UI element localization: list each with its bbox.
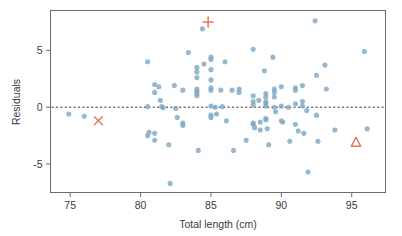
scatter-point [145, 59, 150, 64]
scatter-point [200, 26, 205, 31]
scatter-point [273, 109, 278, 114]
scatter-point [314, 73, 319, 78]
scatter-point [208, 77, 213, 82]
scatter-point [300, 83, 305, 88]
scatter-point [180, 88, 185, 93]
scatter-point [152, 90, 157, 95]
scatter-point [146, 130, 151, 135]
scatter-point [258, 127, 263, 132]
scatter-point [365, 126, 370, 131]
scatter-point [231, 148, 236, 153]
scatter-point [145, 104, 150, 109]
scatter-point [175, 115, 180, 120]
scatter-point [244, 138, 249, 143]
scatter-point [279, 104, 284, 109]
scatter-point [194, 69, 199, 74]
scatter-point [263, 94, 268, 99]
scatter-point [173, 106, 178, 111]
scatter-point [301, 131, 306, 136]
scatter-point [286, 105, 291, 110]
scatter-point [258, 119, 263, 124]
scatter-point [293, 101, 298, 106]
scatter-point [293, 122, 298, 127]
scatter-point [315, 139, 320, 144]
scatter-point [158, 98, 163, 103]
highlighted-markers [94, 17, 360, 146]
scatter-point [296, 129, 301, 134]
scatter-point [66, 111, 71, 116]
x-axis-label: Total length (cm) [179, 218, 257, 230]
scatter-point [201, 61, 206, 66]
scatter-point [263, 104, 268, 109]
scatter-point [362, 49, 367, 54]
y-axis-label: Residuals [10, 78, 22, 124]
scatter-point [222, 59, 227, 64]
scatter-point [82, 114, 87, 119]
plot-canvas: 758085909550-5 [0, 0, 402, 236]
scatter-point [280, 119, 285, 124]
scatter-point [306, 169, 311, 174]
scatter-point [272, 90, 277, 95]
y-tick-label: 5 [37, 44, 43, 56]
scatter-point [194, 65, 199, 70]
scatter-point [300, 99, 305, 104]
scatter-point [313, 18, 318, 23]
y-tick-label: -5 [33, 158, 42, 170]
scatter-point [304, 108, 309, 113]
scatter-point [172, 83, 177, 88]
scatter-point [251, 93, 256, 98]
scatter-point [230, 88, 235, 93]
scatter-point [272, 94, 277, 99]
scatter-point [208, 115, 213, 120]
scatter-point [256, 98, 261, 103]
scatter-point [293, 88, 298, 93]
scatter-point [314, 113, 319, 118]
plus-marker [203, 17, 213, 27]
scatter-point [220, 104, 225, 109]
scatter-point [196, 148, 201, 153]
scatter-point [272, 105, 277, 110]
x-tick-label: 80 [135, 199, 147, 211]
scatter-point [214, 111, 219, 116]
scatter-point [270, 55, 275, 60]
scatter-point [262, 68, 267, 73]
scatter-point [279, 84, 284, 89]
scatter-point [332, 127, 337, 132]
scatter-point [213, 105, 218, 110]
scatter-point [265, 126, 270, 131]
scatter-point [194, 93, 199, 98]
scatter-point [237, 86, 242, 91]
scatter-point [186, 50, 191, 55]
scatter-point [252, 125, 257, 130]
scatter-point [218, 88, 223, 93]
scatter-point [324, 86, 329, 91]
scatter-point [152, 138, 157, 143]
scatter-point [322, 63, 327, 68]
scatter-point [287, 139, 292, 144]
triangle-marker [351, 137, 360, 146]
scatter-point [194, 75, 199, 80]
scatter-point [152, 131, 157, 136]
scatter-point [251, 102, 256, 107]
x-marker [94, 117, 102, 125]
scatter-point [208, 67, 213, 72]
x-tick-label: 85 [205, 199, 217, 211]
scatter-point [168, 181, 173, 186]
y-tick-label: 0 [37, 101, 43, 113]
scatter-plot-figure: 758085909550-5 Total length (cm) Residua… [0, 0, 402, 236]
scatter-point [166, 142, 171, 147]
scatter-point [156, 84, 161, 89]
scatter-point [161, 105, 166, 110]
scatter-point [224, 118, 229, 123]
scatter-point [208, 57, 213, 62]
x-tick-label: 90 [275, 199, 287, 211]
data-points [66, 18, 370, 186]
plot-frame [51, 11, 386, 193]
scatter-point [251, 47, 256, 52]
scatter-point [263, 117, 268, 122]
x-tick-label: 95 [346, 199, 358, 211]
scatter-point [208, 88, 213, 93]
scatter-point [180, 123, 185, 128]
x-tick-label: 75 [64, 199, 76, 211]
scatter-point [266, 142, 271, 147]
